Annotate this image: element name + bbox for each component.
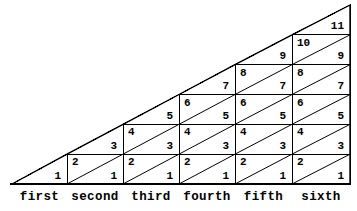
cell-number-lower-6-6: 11 — [331, 20, 345, 32]
column-label-second: second — [71, 190, 118, 204]
cell-number-upper-3-2: 4 — [128, 126, 135, 138]
cell-number-lower-6-1: 1 — [337, 170, 344, 182]
figure-canvas: 11231234512345671234567891234567891011 f… — [0, 0, 357, 211]
cell-number-lower-2-1: 1 — [110, 170, 117, 182]
cell-number-upper-6-4: 8 — [297, 67, 304, 79]
cell-number-upper-4-2: 4 — [184, 126, 191, 138]
cell-number-upper-2-1: 2 — [72, 156, 79, 168]
cell-number-upper-4-3: 6 — [184, 97, 191, 109]
cell-number-lower-5-1: 1 — [279, 170, 286, 182]
column-label-fifth: fifth — [244, 190, 284, 204]
cell-number-lower-2-2: 3 — [110, 140, 117, 152]
cell-number-lower-5-3: 5 — [279, 110, 286, 122]
cell-number-lower-3-2: 3 — [166, 140, 173, 152]
diagonal-group — [67, 35, 350, 184]
cell-number-upper-4-1: 2 — [184, 156, 191, 168]
cell-number-upper-5-4: 8 — [240, 67, 247, 79]
cell-number-lower-5-2: 3 — [279, 140, 286, 152]
cell-number-lower-5-4: 7 — [279, 80, 286, 92]
number-group: 11231234512345671234567891234567891011 — [54, 20, 344, 181]
cell-number-lower-4-2: 3 — [222, 140, 229, 152]
cell-number-lower-6-4: 7 — [337, 80, 344, 92]
cell-number-upper-6-2: 4 — [297, 126, 304, 138]
cell-number-lower-4-4: 7 — [222, 80, 229, 92]
cell-number-lower-5-5: 9 — [279, 50, 286, 62]
column-label-fourth: fourth — [183, 190, 230, 204]
cell-number-lower-4-1: 1 — [222, 170, 229, 182]
cell-number-upper-6-5: 10 — [297, 37, 310, 49]
cell-number-upper-5-3: 6 — [240, 97, 247, 109]
column-label-third: third — [131, 190, 171, 204]
cell-number-upper-5-2: 4 — [240, 126, 247, 138]
cell-number-lower-6-2: 3 — [337, 140, 344, 152]
staircase-triangle-diagram: 11231234512345671234567891234567891011 f… — [0, 0, 357, 211]
cell-number-upper-5-1: 2 — [240, 156, 247, 168]
cell-number-lower-6-3: 5 — [337, 110, 344, 122]
cell-number-lower-3-1: 1 — [166, 170, 173, 182]
column-label-first: first — [20, 190, 60, 204]
column-label-sixth: sixth — [301, 190, 341, 204]
cell-number-lower-6-5: 9 — [337, 50, 344, 62]
column-label-group: firstsecondthirdfourthfifthsixth — [20, 190, 341, 204]
cell-number-lower-4-3: 5 — [222, 110, 229, 122]
cell-number-upper-6-1: 2 — [297, 156, 304, 168]
cell-number-upper-6-3: 6 — [297, 97, 304, 109]
cell-number-upper-3-1: 2 — [128, 156, 135, 168]
cell-number-lower-1-1: 1 — [54, 170, 61, 182]
cell-number-lower-3-3: 5 — [166, 110, 173, 122]
